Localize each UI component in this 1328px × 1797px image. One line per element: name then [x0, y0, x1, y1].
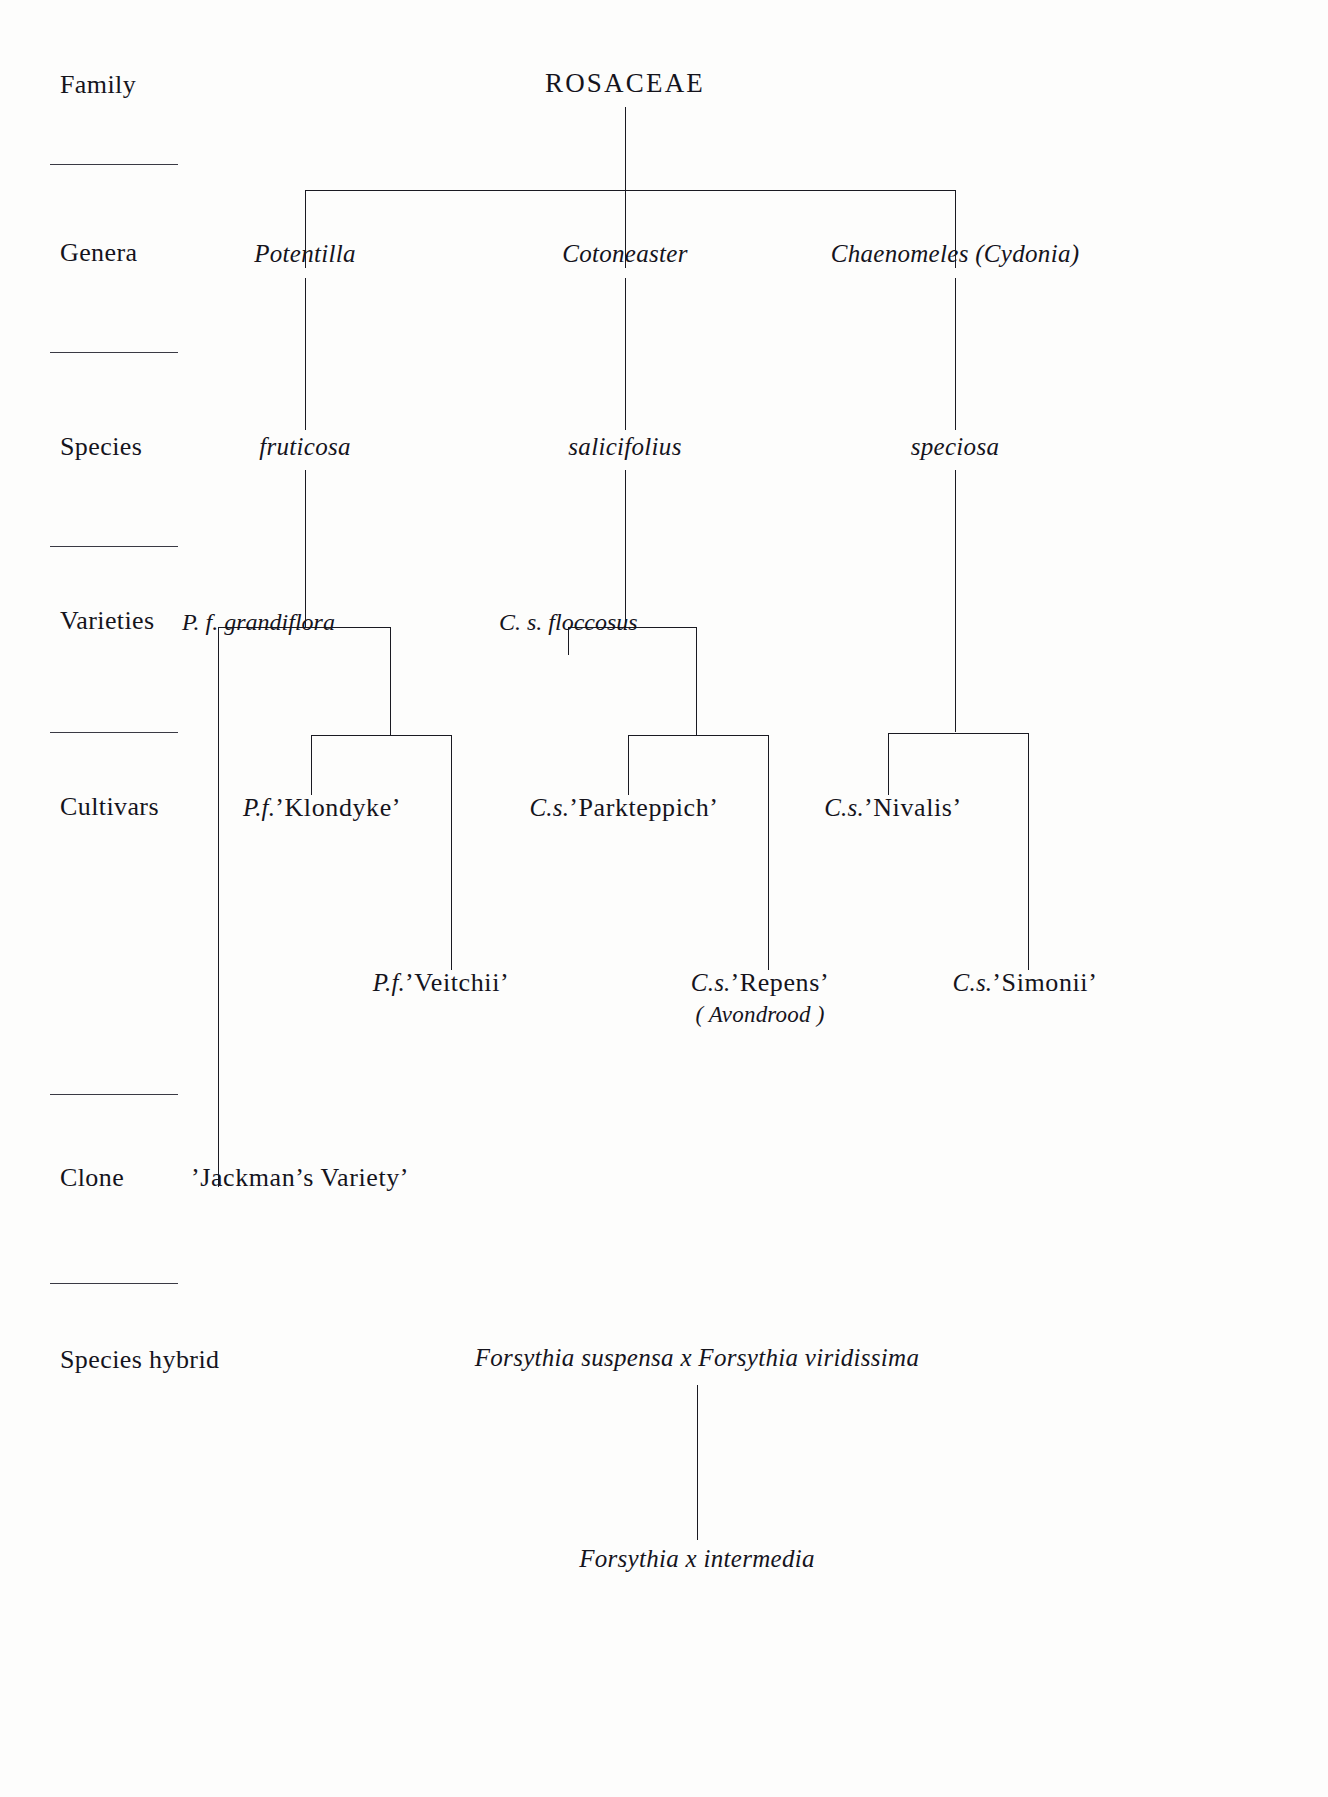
connector-veitchii-drop [451, 735, 452, 970]
cultivar-pf-veitchii: P.f.’Veitchii’ [373, 968, 509, 998]
rank-divider-3 [50, 546, 178, 547]
rank-label-species-hybrid: Species hybrid [60, 1345, 219, 1375]
connector-cotoneaster-to-species [625, 278, 626, 430]
variety-abbr: P. f. [182, 609, 224, 635]
rank-label-genera: Genera [60, 238, 137, 268]
connector-speciosa-stem [955, 470, 956, 732]
rank-label-varieties: Varieties [60, 606, 155, 636]
species-fruticosa: fruticosa [259, 433, 351, 462]
connector-fruticosa-right-drop [390, 627, 391, 735]
cultivar-name: ’Parkteppich’ [569, 793, 718, 822]
connector-family-stem [625, 107, 626, 190]
cultivar-name: ’Veitchii’ [405, 968, 509, 997]
cultivar-name: ’Nivalis’ [864, 793, 962, 822]
cultivar-pf-klondyke: P.f.’Klondyke’ [243, 793, 401, 823]
connector-potentilla-to-species [305, 278, 306, 430]
connector-repens-drop [768, 735, 769, 970]
rank-divider-6 [50, 1283, 178, 1284]
cultivar-synonym: ( Avondrood ) [691, 1002, 829, 1028]
clone-jackmans-variety: ’Jackman’s Variety’ [191, 1163, 409, 1193]
connector-hybrid-stem [697, 1385, 698, 1540]
cultivar-cs-repens: C.s.’Repens’( Avondrood ) [691, 968, 829, 1028]
cultivar-abbr: C.s. [953, 969, 993, 996]
cultivar-abbr: C.s. [691, 969, 731, 996]
connector-chaenomeles-to-species [955, 278, 956, 430]
connector-nivalis-drop [888, 733, 889, 795]
cultivar-name: ’Klondyke’ [275, 793, 401, 822]
connector-fruticosa-stem [305, 470, 306, 627]
connector-parkteppich-drop [628, 735, 629, 795]
rank-label-cultivars: Cultivars [60, 792, 159, 822]
rank-label-clone: Clone [60, 1163, 124, 1193]
cultivar-cs-simonii: C.s.’Simonii’ [953, 968, 1098, 998]
connector-klondyke-drop [311, 735, 312, 795]
rank-divider-5 [50, 1094, 178, 1095]
rank-divider-1 [50, 164, 178, 165]
genus-cotoneaster: Cotoneaster [562, 240, 688, 269]
taxonomy-diagram: Family Genera Species Varieties Cultivar… [0, 0, 1328, 1797]
connector-cs-cultivar-bar [628, 735, 768, 736]
connector-pf-cultivar-bar [311, 735, 451, 736]
genus-chaenomeles: Chaenomeles (Cydonia) [831, 240, 1080, 269]
connector-genera-bar [305, 190, 955, 191]
family-title: ROSACEAE [545, 68, 705, 99]
connector-chaenomeles-cultivar-bar [888, 733, 1028, 734]
variety-cs-floccosus: C. s. floccosus [499, 609, 638, 637]
rank-divider-4 [50, 732, 178, 733]
variety-pf-grandiflora: P. f. grandiflora [182, 609, 335, 637]
species-hybrid-offspring: Forsythia x intermedia [579, 1545, 815, 1574]
cultivar-name: ’Simonii’ [992, 968, 1097, 997]
species-salicifolius: salicifolius [568, 433, 681, 462]
variety-name: grandiflora [224, 609, 335, 635]
rank-label-species: Species [60, 432, 142, 462]
rank-label-family: Family [60, 70, 136, 100]
cultivar-abbr: C.s. [824, 794, 864, 821]
species-hybrid-parents: Forsythia suspensa x Forsythia viridissi… [475, 1344, 920, 1373]
variety-abbr: C. s. [499, 609, 548, 635]
rank-divider-2 [50, 352, 178, 353]
cultivar-cs-nivalis: C.s.’Nivalis’ [824, 793, 962, 823]
cultivar-abbr: C.s. [529, 794, 569, 821]
cultivar-name: ’Repens’ [731, 968, 830, 997]
connector-salicifolius-stem [625, 470, 626, 627]
cultivar-cs-parkteppich: C.s.’Parkteppich’ [529, 793, 718, 823]
genus-potentilla: Potentilla [254, 240, 356, 269]
variety-name: floccosus [548, 609, 637, 635]
cultivar-abbr: P.f. [373, 969, 405, 996]
connector-grandiflora-to-clone [218, 627, 219, 1187]
species-speciosa: speciosa [911, 433, 1000, 462]
connector-salicifolius-right-drop [696, 627, 697, 735]
connector-simonii-drop [1028, 733, 1029, 970]
cultivar-abbr: P.f. [243, 794, 275, 821]
